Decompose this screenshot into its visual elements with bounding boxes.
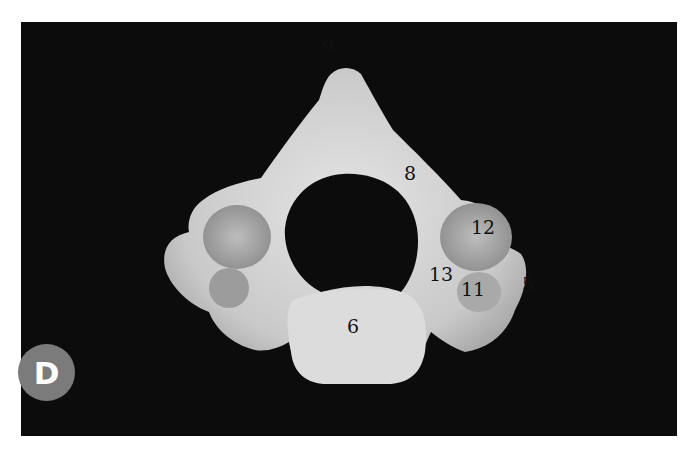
label-5: 5 [522, 275, 534, 294]
label-6: 6 [347, 317, 359, 336]
transverse-foramen-left [209, 268, 249, 308]
vertebra-photo [21, 22, 677, 436]
panel-badge: D [18, 344, 75, 401]
label-12: 12 [471, 218, 495, 237]
label-9: 9 [322, 37, 334, 56]
panel-letter: D [34, 355, 60, 391]
label-8: 8 [404, 164, 416, 183]
label-11: 11 [461, 280, 485, 299]
vertebra-illustration [21, 22, 677, 436]
label-13: 13 [429, 265, 453, 284]
superior-articular-facet-left [203, 205, 271, 269]
